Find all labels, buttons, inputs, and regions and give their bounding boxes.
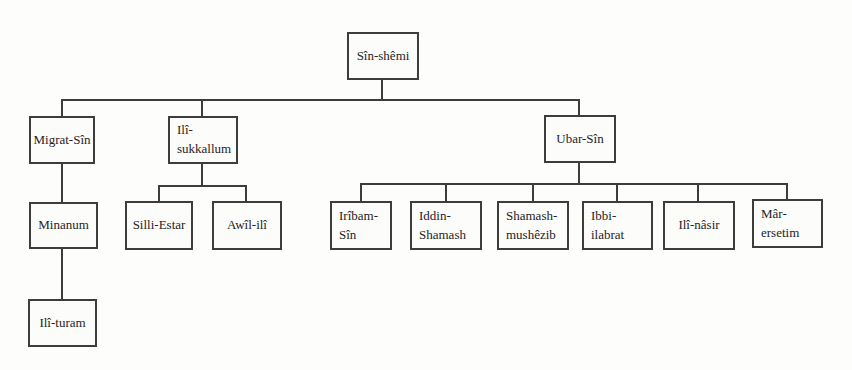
connector-drop-iddin-shamash bbox=[445, 183, 447, 203]
connector-drop-iribam-sin bbox=[360, 183, 362, 203]
node-label: Ilî-nâsir bbox=[678, 216, 719, 235]
node-label: Ilî-sukkallum bbox=[177, 121, 223, 159]
node-awil-ili: Awîl-ilî bbox=[212, 201, 282, 250]
node-ili-nasir: Ilî-nâsir bbox=[663, 201, 735, 250]
connector-ubar-rail bbox=[360, 183, 788, 185]
node-silli-estar: Silli-Estar bbox=[125, 201, 193, 250]
connector-minanum-ili-turam bbox=[61, 248, 63, 301]
node-ubar-sin: Ubar-Sîn bbox=[544, 115, 616, 163]
connector-sukkallum-stem bbox=[201, 163, 203, 187]
connector-migrat-minanum bbox=[61, 163, 63, 204]
connector-drop-ibbi-ilabrat bbox=[616, 183, 618, 203]
node-iddin-shamash: Iddin-Shamash bbox=[410, 201, 482, 250]
node-label: Ilî-turam bbox=[39, 314, 85, 333]
family-tree-diagram: Sîn-shêmi Migrat-Sîn Ilî-sukkallum Ubar-… bbox=[0, 0, 852, 370]
node-label: Sîn-shêmi bbox=[357, 47, 410, 66]
node-label: Silli-Estar bbox=[133, 216, 186, 235]
node-shamash-mushezib: Shamash-mushêzib bbox=[497, 201, 569, 250]
node-mar-ersetim: Mâr-ersetim bbox=[752, 199, 823, 248]
node-migrat-sin: Migrat-Sîn bbox=[29, 116, 95, 164]
node-label: Minanum bbox=[38, 216, 89, 235]
node-label: Ibbi-ilabrat bbox=[591, 207, 637, 245]
node-label: Awîl-ilî bbox=[227, 216, 267, 235]
node-label: Ubar-Sîn bbox=[556, 130, 603, 149]
connector-level1-rail bbox=[61, 99, 580, 101]
node-ili-sukkallum: Ilî-sukkallum bbox=[168, 116, 238, 164]
node-minanum: Minanum bbox=[29, 202, 98, 249]
node-label: Irîbam-Sîn bbox=[339, 207, 385, 245]
node-ibbi-ilabrat: Ibbi-ilabrat bbox=[582, 201, 653, 250]
node-label: Iddin-Shamash bbox=[419, 207, 465, 245]
connector-drop-shamash-mushezib bbox=[532, 183, 534, 203]
node-label: Mâr-ersetim bbox=[761, 205, 807, 243]
connector-root-drop bbox=[381, 79, 383, 101]
node-iribam-sin: Irîbam-Sîn bbox=[330, 201, 392, 250]
node-ili-turam: Ilî-turam bbox=[28, 299, 97, 347]
node-label: Migrat-Sîn bbox=[33, 131, 90, 150]
node-sin-shemi: Sîn-shêmi bbox=[347, 32, 419, 80]
connector-drop-ili-nasir bbox=[697, 183, 699, 203]
connector-ubar-stem bbox=[578, 162, 580, 185]
node-label: Shamash-mushêzib bbox=[506, 207, 552, 245]
connector-sukkallum-rail bbox=[158, 185, 247, 187]
